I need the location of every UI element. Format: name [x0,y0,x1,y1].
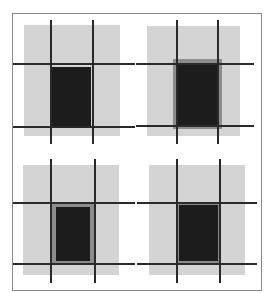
dark-rectangle [179,205,218,261]
guide-line-horizontal-top [136,63,254,65]
guide-line-horizontal-top [13,63,135,65]
guide-line-horizontal-top [13,202,135,204]
dark-rectangle [56,207,90,261]
guide-line-horizontal-bottom [137,263,257,265]
dark-rectangle [51,67,91,127]
dark-rectangle [177,63,218,126]
guide-line-horizontal-bottom [136,125,254,127]
guide-line-horizontal-top [137,202,257,204]
guide-line-horizontal-bottom [13,126,135,128]
guide-line-horizontal-bottom [13,263,135,265]
